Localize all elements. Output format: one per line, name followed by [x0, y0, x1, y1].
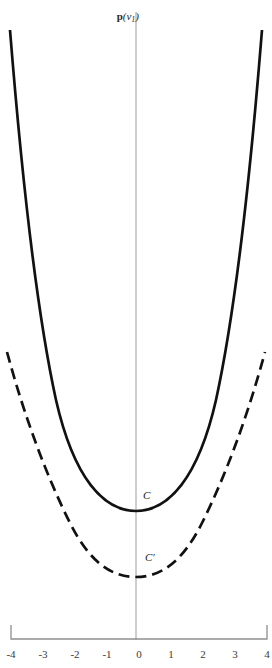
curve-label-c: C — [143, 490, 150, 501]
x-tick-label-0: 0 — [126, 648, 152, 660]
y-axis-label: p(v1) — [99, 10, 139, 26]
x-tick-label-4: 4 — [254, 648, 272, 660]
x-tick-label--4: -4 — [0, 648, 24, 660]
plot-canvas — [0, 0, 272, 668]
x-tick-label-3: 3 — [222, 648, 248, 660]
x-tick-label--2: -2 — [62, 648, 88, 660]
x-tick-label--1: -1 — [94, 648, 120, 660]
x-axis-line — [11, 625, 267, 639]
cost-curve-figure: p(v1) -4 -3 -2 -1 0 1 2 3 4 C C′ — [0, 0, 272, 668]
curve-label-c-prime: C′ — [145, 552, 155, 563]
x-tick-label-1: 1 — [158, 648, 184, 660]
y-axis-label-close-paren: ) — [135, 10, 139, 22]
x-tick-label--3: -3 — [30, 648, 56, 660]
x-tick-label-2: 2 — [190, 648, 216, 660]
